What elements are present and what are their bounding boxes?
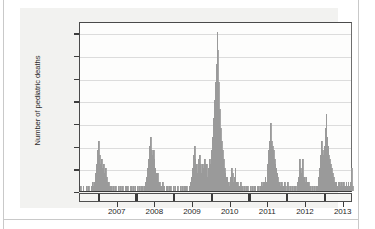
x-axis-year-divider: [286, 194, 288, 201]
bar: [127, 186, 129, 191]
bar: [88, 186, 90, 191]
bar-series: [80, 23, 351, 191]
x-axis-year-divider: [98, 194, 100, 201]
bar: [115, 186, 117, 191]
y-axis-title: Number of pediatric deaths: [33, 31, 42, 171]
bar: [83, 186, 85, 191]
x-tick-label: 2012: [285, 207, 325, 216]
x-axis-year-divider: [324, 194, 326, 201]
bar: [175, 186, 177, 191]
bar: [247, 186, 249, 191]
page-edge-bottom-artifact: [3, 219, 359, 220]
page-edge-right-artifact: [358, 0, 359, 229]
x-tick-label: 2010: [210, 207, 250, 216]
chart-figure-panel: Number of pediatric deaths 0510152025303…: [20, 8, 338, 208]
bar: [352, 186, 354, 191]
x-axis-year-divider: [211, 194, 213, 201]
bar: [170, 186, 172, 191]
bar: [186, 186, 188, 191]
bar: [135, 186, 137, 191]
x-tick-label: 2011: [247, 207, 287, 216]
bar: [80, 186, 82, 191]
x-tick-label: 2008: [134, 207, 174, 216]
bar: [122, 186, 124, 191]
x-axis-band: [79, 193, 352, 202]
x-tick-label: 2013: [323, 207, 363, 216]
x-tick-label: 2007: [97, 207, 137, 216]
page-edge-left-artifact: [3, 0, 4, 229]
x-axis-year-divider: [135, 194, 137, 201]
x-axis-year-divider: [248, 194, 250, 201]
x-tick-label: 2009: [172, 207, 212, 216]
x-axis-year-divider: [173, 194, 175, 201]
plot-area: [79, 22, 352, 192]
bar: [177, 186, 179, 191]
